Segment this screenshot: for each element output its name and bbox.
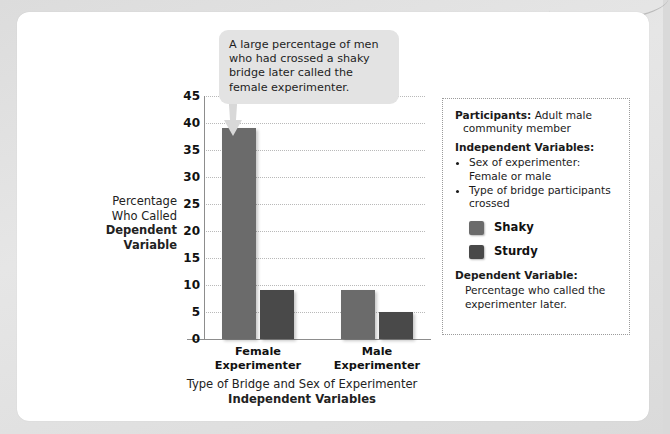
independent-variables-list: Sex of experimenter: Female or maleType … xyxy=(455,156,617,211)
y-tick-label: 15 xyxy=(166,251,200,265)
independent-variable-item: Type of bridge participants crossed xyxy=(469,184,617,211)
y-tick-label: 45 xyxy=(166,89,200,103)
x-axis-title: Type of Bridge and Sex of Experimenter I… xyxy=(137,377,467,406)
y-axis-title-line4: Variable xyxy=(124,238,177,252)
y-tick-label: 5 xyxy=(166,305,200,319)
legend-swatch-icon xyxy=(469,245,484,259)
x-axis-line xyxy=(187,339,431,340)
x-category-label: FemaleExperimenter xyxy=(203,345,313,372)
dependent-variable-section: Dependent Variable: Percentage who calle… xyxy=(455,269,617,311)
y-tick-label: 0 xyxy=(166,332,200,346)
participants-value-line2: community member xyxy=(463,122,571,135)
x-axis-title-line1: Type of Bridge and Sex of Experimenter xyxy=(187,377,418,391)
y-tick-label: 35 xyxy=(166,143,200,157)
bar-sturdy-1 xyxy=(379,312,413,339)
x-category-label: MaleExperimenter xyxy=(322,345,432,372)
figure-card: 051015202530354045 Percentage Who Called… xyxy=(17,12,649,421)
y-tick-label: 30 xyxy=(166,170,200,184)
y-axis-title-line1: Percentage xyxy=(112,194,177,208)
callout-text: A large percentage of men who had crosse… xyxy=(229,38,379,94)
independent-variables-label: Independent Variables: xyxy=(455,141,617,154)
legend-label: Shaky xyxy=(494,221,534,234)
chart-legend: ShakySturdy xyxy=(469,221,617,259)
bar-shaky-1 xyxy=(341,290,375,339)
bar-shaky-0 xyxy=(222,128,256,339)
independent-variable-item: Sex of experimenter: Female or male xyxy=(469,156,617,183)
bar-sturdy-0 xyxy=(260,290,294,339)
legend-item-sturdy: Sturdy xyxy=(469,245,617,259)
y-tick-label: 40 xyxy=(166,116,200,130)
participants-label: Participants: xyxy=(455,109,531,121)
y-axis-title-line2: Who Called xyxy=(112,209,177,223)
participants-section: Participants: Adult male community membe… xyxy=(455,109,617,136)
y-axis-title: Percentage Who Called Dependent Variable xyxy=(65,194,177,252)
callout-bubble: A large percentage of men who had crosse… xyxy=(219,30,399,104)
legend-item-shaky: Shaky xyxy=(469,221,617,235)
independent-variables-section: Independent Variables: Sex of experiment… xyxy=(455,141,617,211)
y-tick-label: 10 xyxy=(166,278,200,292)
legend-label: Sturdy xyxy=(494,245,538,258)
info-panel: Participants: Adult male community membe… xyxy=(442,98,630,335)
dependent-variable-text: Percentage who called the experimenter l… xyxy=(465,284,617,311)
y-axis-title-line3: Dependent xyxy=(106,223,177,237)
dependent-variable-label: Dependent Variable: xyxy=(455,269,617,282)
x-axis-title-line2: Independent Variables xyxy=(228,392,376,406)
participants-value: Adult male xyxy=(531,109,592,121)
legend-swatch-icon xyxy=(469,221,484,235)
